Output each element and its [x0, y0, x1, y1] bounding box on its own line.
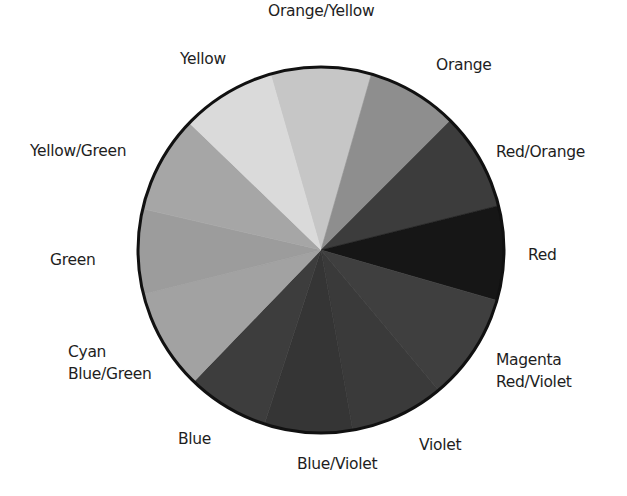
label-blue-violet: Blue/Violet	[297, 453, 377, 475]
label-text: Blue/Violet	[297, 453, 377, 475]
label-magenta-red-violet: MagentaRed/Violet	[496, 349, 572, 393]
label-orange: Orange	[436, 54, 491, 76]
label-yellow: Yellow	[180, 48, 226, 70]
label-text: Cyan	[68, 341, 151, 363]
label-yellow-green: Yellow/Green	[30, 140, 126, 162]
label-text: Yellow/Green	[30, 140, 126, 162]
label-text: Orange	[436, 54, 491, 76]
pie-slices	[138, 67, 504, 433]
label-text: Orange/Yellow	[268, 0, 374, 22]
label-cyan-blue-green: CyanBlue/Green	[68, 341, 151, 385]
label-text: Red	[528, 244, 557, 266]
label-violet: Violet	[419, 434, 461, 456]
label-text: Magenta	[496, 349, 572, 371]
label-text: Blue/Green	[68, 363, 151, 385]
label-red-orange: Red/Orange	[496, 141, 585, 163]
label-text: Violet	[419, 434, 461, 456]
label-red: Red	[528, 244, 557, 266]
label-text: Red/Violet	[496, 371, 572, 393]
label-text: Yellow	[180, 48, 226, 70]
label-text: Red/Orange	[496, 141, 585, 163]
label-text: Blue	[178, 428, 211, 450]
label-green: Green	[50, 249, 95, 271]
label-text: Green	[50, 249, 95, 271]
label-blue: Blue	[178, 428, 211, 450]
label-orange-yellow: Orange/Yellow	[268, 0, 374, 22]
